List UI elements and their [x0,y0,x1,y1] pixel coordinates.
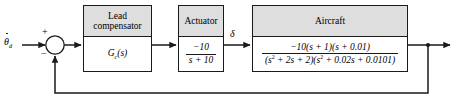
actuator-transfer-function: −10 s + 10 [186,42,216,65]
actuator-body: −10 s + 10 [179,37,223,71]
aircraft-title: Aircraft [315,16,345,26]
block-actuator[interactable]: Actuator −10 s + 10 [178,5,224,72]
dot-accent-icon [6,33,8,35]
aircraft-numerator: −10(s + 1)(s + 0.01) [287,42,373,53]
actuator-denominator: s + 10 [186,54,216,66]
lead-compensator-title-line-1: Lead [108,11,127,21]
block-diagram-canvas: θ d + − Lead compensator Gc(s) Actuator … [0,0,455,112]
block-aircraft[interactable]: Aircraft −10(s + 1)(s + 0.01) (s2 + 2s +… [252,5,408,72]
input-signal-label: θ d [4,36,12,49]
aircraft-header: Aircraft [253,6,407,37]
lead-compensator-header: Lead compensator [84,6,151,37]
gc-base: G [108,48,115,58]
actuator-numerator: −10 [190,42,212,53]
theta-glyph: θ [4,36,9,47]
lead-compensator-body: Gc(s) [84,37,151,71]
gc-argument: (s) [117,48,127,58]
lead-compensator-title-line-2: compensator [93,21,142,31]
actuator-title: Actuator [184,16,217,26]
block-lead-compensator[interactable]: Lead compensator Gc(s) [83,5,152,72]
input-subscript: d [9,42,12,49]
aircraft-body: −10(s + 1)(s + 0.01) (s2 + 2s + 2)(s2 + … [253,37,407,71]
theta-symbol: θ [4,36,9,47]
summing-plus-sign: + [42,26,48,37]
aircraft-denominator: (s2 + 2s + 2)(s2 + 0.02s + 0.0101) [262,53,398,66]
lead-compensator-transfer-function: Gc(s) [108,48,128,60]
delta-signal-label: δ [230,28,235,39]
aircraft-transfer-function: −10(s + 1)(s + 0.01) (s2 + 2s + 2)(s2 + … [262,42,398,66]
summing-junction-circle [46,36,64,54]
summing-minus-sign: − [41,48,47,59]
actuator-header: Actuator [179,6,223,37]
